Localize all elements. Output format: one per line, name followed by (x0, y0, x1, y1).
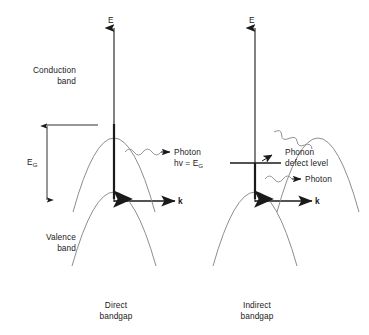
indirect-momentum-axis-label: k (315, 196, 320, 207)
direct-photon-label: Photon (174, 147, 201, 158)
direct-valence-band-label: Valenceband (4, 232, 76, 253)
direct-conduction-band-label: Conductionband (4, 65, 76, 86)
direct-momentum-axis-label: k (178, 196, 183, 207)
indirect-phonon-defect-level-label: Phonondefect level (285, 147, 328, 168)
indirect-panel-caption: Indirectbandgap (221, 300, 293, 321)
direct-energy-axis-label: E (108, 15, 114, 26)
direct-photon-energy-subscript: G (198, 162, 203, 169)
indirect-valence-band-curve (213, 192, 297, 266)
indirect-phonon-arrow (262, 155, 272, 161)
indirect-energy-axis-label: E (249, 15, 255, 26)
direct-panel-caption: Directbandgap (80, 300, 152, 321)
panel-direct (46, 28, 175, 266)
direct-valence-band-curve (72, 192, 156, 266)
direct-bandgap-subscript: G (33, 161, 38, 168)
direct-photon-energy-label: hv = EG (174, 158, 203, 172)
direct-bandgap-label: EG (27, 157, 38, 171)
indirect-photon-label: Photon (305, 174, 332, 185)
